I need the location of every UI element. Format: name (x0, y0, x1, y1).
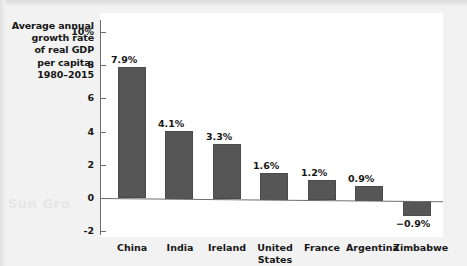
x-axis-label-line: India (156, 242, 204, 254)
bar-value-label: 7.9% (111, 54, 137, 65)
bar-value-label: 1.6% (253, 160, 279, 171)
bar (355, 186, 383, 201)
bar-value-label: 1.2% (301, 167, 327, 178)
x-axis-category-label: UnitedStates (251, 242, 299, 265)
y-axis-tick-label: 8 (52, 59, 94, 70)
bar-value-label: −0.9% (396, 218, 430, 229)
bar-value-label: 0.9% (348, 173, 374, 184)
y-axis-tick-mark (101, 132, 106, 133)
x-axis-category-label: India (156, 242, 204, 254)
bar (308, 180, 336, 200)
bar (403, 201, 431, 216)
y-axis-tick-mark (101, 98, 106, 99)
y-axis-tick-label: 2 (52, 159, 94, 170)
bar (213, 144, 241, 199)
y-axis-tick-label: 10% (52, 26, 94, 37)
x-axis-label-line: United (251, 242, 299, 254)
y-axis-tick-label: -2 (52, 225, 94, 236)
x-axis-label-line: Argentina (346, 242, 394, 254)
x-axis-category-label: Ireland (203, 242, 251, 254)
y-axis-tick-label: 0 (52, 192, 94, 203)
bar (165, 131, 193, 199)
y-axis-tick-mark (101, 65, 106, 66)
x-axis-label-line: Zimbabwe (393, 242, 441, 254)
y-axis-tick-mark (101, 165, 106, 166)
x-axis-category-label: China (108, 242, 156, 254)
x-axis-category-label: Zimbabwe (393, 242, 441, 254)
bar (118, 67, 146, 198)
x-axis-category-label: France (298, 242, 346, 254)
scan-edge-top (0, 0, 467, 7)
chart-figure: Sun Gro Average annualgrowth rateof real… (0, 0, 467, 266)
y-axis-tick-label: 6 (52, 92, 94, 103)
x-axis-category-label: Argentina (346, 242, 394, 254)
chart-title-line: of real GDP (2, 44, 94, 56)
y-axis (100, 20, 101, 235)
bar-value-label: 4.1% (158, 118, 184, 129)
x-axis-label-line: Ireland (203, 242, 251, 254)
x-axis-label-line: States (251, 254, 299, 266)
y-axis-tick-mark (101, 32, 106, 33)
bar (260, 173, 288, 200)
y-axis-tick-mark (101, 231, 106, 232)
chart-title-line: 1980–2015 (2, 69, 94, 81)
plot-area (100, 13, 443, 237)
x-axis-label-line: China (108, 242, 156, 254)
bar-value-label: 3.3% (206, 131, 232, 142)
x-axis-label-line: France (298, 242, 346, 254)
y-axis-tick-label: 4 (52, 126, 94, 137)
